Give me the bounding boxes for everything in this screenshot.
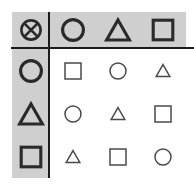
triangle-icon [110,106,126,121]
circle-icon [18,58,44,84]
square-icon [63,61,83,81]
square-icon [150,17,176,43]
square-icon [108,147,128,167]
triangle-icon [17,101,45,127]
circle-icon [63,104,83,124]
square-icon [153,104,173,124]
table-cell-r2c1 [95,135,140,178]
row-header-square [12,135,49,178]
operation-table-figure [0,0,194,190]
operator-corner-cell [12,12,49,48]
triangle-icon [104,17,132,43]
column-header-triangle [95,12,140,48]
circle-icon [153,147,173,167]
column-header-square [140,12,186,48]
table-cell-r2c2 [140,135,186,178]
circle-icon [108,61,128,81]
table-cell-r0c1 [95,49,140,92]
table-cell-r1c0 [50,92,95,135]
row-header-triangle [12,92,49,135]
triangle-icon [155,63,171,78]
circle-icon [60,17,86,43]
table-cell-r2c0 [50,135,95,178]
column-header-circle [50,12,95,48]
square-icon [18,144,44,170]
triangle-icon [65,149,81,164]
table-cell-r0c0 [50,49,95,92]
circled-cross-icon [19,18,43,42]
table-cell-r1c2 [140,92,186,135]
row-header-circle [12,49,49,92]
table-cell-r0c2 [140,49,186,92]
table-cell-r1c1 [95,92,140,135]
